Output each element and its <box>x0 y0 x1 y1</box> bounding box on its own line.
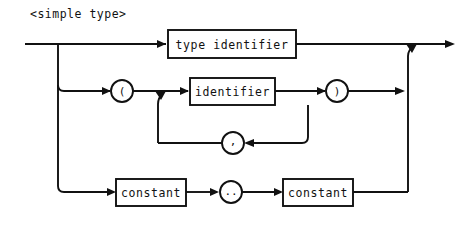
diagram-title: <simple type> <box>30 7 127 21</box>
row2-exit-rail <box>348 87 405 95</box>
arrow-row2-merge <box>395 87 405 95</box>
row1-exit-rail <box>296 40 455 48</box>
node-constant-high: constant <box>283 179 353 206</box>
node-open-paren: ( <box>111 80 133 102</box>
range-dots-label: .. <box>224 185 237 198</box>
constant-low-label: constant <box>121 186 181 200</box>
arrow-loop-return-merge <box>155 91 166 100</box>
branch-spine-rail <box>58 44 110 192</box>
node-range-dots: .. <box>220 181 242 203</box>
constant-high-label: constant <box>288 186 348 200</box>
node-type-identifier: type identifier <box>168 30 296 58</box>
row3-mid-rail-a <box>186 188 219 196</box>
node-constant-low: constant <box>116 179 186 206</box>
railroad-diagram-svg: type identifier ( <box>0 0 461 225</box>
merge-spine-rail <box>406 44 417 192</box>
railroad-diagram-canvas: type identifier ( <box>0 0 461 225</box>
identifier-label: identifier <box>195 85 270 99</box>
row3-entry-rail <box>107 188 116 196</box>
type-identifier-label: type identifier <box>176 38 289 52</box>
node-close-paren: ) <box>326 80 348 102</box>
arrow-into-open-paren <box>102 87 111 95</box>
arrow-exit-diagram <box>445 40 455 48</box>
arrow-into-close-paren <box>317 87 326 95</box>
arrow-into-range-dots <box>210 188 219 196</box>
arrow-merge-into-main-rail <box>406 44 417 53</box>
loop-return-rail <box>155 91 166 143</box>
arrow-into-constant-high <box>274 188 283 196</box>
row2-entry-rail <box>102 87 111 95</box>
row2-after-identifier-rail <box>275 87 326 95</box>
arrow-into-comma <box>244 139 254 147</box>
node-identifier: identifier <box>190 78 275 105</box>
comma-label: , <box>230 135 237 148</box>
entry-rail <box>25 40 166 48</box>
close-paren-label: ) <box>334 85 341 98</box>
arrow-into-type-identifier <box>157 40 166 48</box>
arrow-into-constant-low <box>107 188 116 196</box>
open-paren-label: ( <box>119 85 126 98</box>
row3-mid-rail-b <box>242 188 283 196</box>
arrow-into-identifier <box>180 87 189 95</box>
node-comma: , <box>222 132 244 154</box>
